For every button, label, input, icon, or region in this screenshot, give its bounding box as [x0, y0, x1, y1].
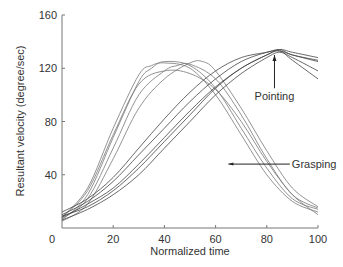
x-tick-label: 100: [309, 233, 327, 245]
x-tick-label: 20: [107, 233, 119, 245]
annotations: PointingGrasping: [228, 55, 336, 170]
x-tick-label: 60: [209, 233, 221, 245]
y-tick-label: 160: [39, 9, 57, 21]
velocity-chart: 0204060801004080120160 PointingGrasping …: [0, 0, 343, 267]
y-tick-label: 120: [39, 62, 57, 74]
y-tick-label: 80: [45, 116, 57, 128]
pointing-label: Pointing: [255, 90, 295, 102]
series-lines: [62, 50, 318, 222]
series-line: [62, 51, 318, 216]
x-tick-label: 40: [158, 233, 170, 245]
series-line: [62, 61, 318, 222]
x-tick-label: 0: [49, 233, 55, 245]
series-line: [62, 63, 318, 218]
x-axis-label: Normalized time: [150, 245, 229, 257]
y-tick-label: 40: [45, 169, 57, 181]
grasping-label: Grasping: [292, 158, 337, 170]
series-line: [62, 63, 318, 218]
y-axis-label: Resultant velocity (degree/sec): [14, 45, 26, 196]
x-tick-label: 80: [261, 233, 273, 245]
series-line: [62, 52, 318, 220]
